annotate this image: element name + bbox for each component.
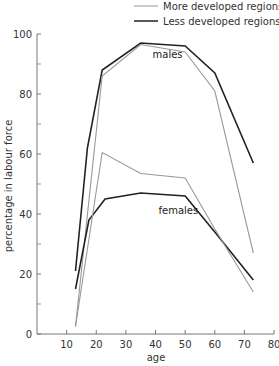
y-tick-label: 0 <box>26 329 32 340</box>
line-chart: More developed regions Less developed re… <box>0 0 279 366</box>
x-tick-label: 10 <box>60 339 73 350</box>
legend-label-more-developed: More developed regions <box>163 1 279 12</box>
males-label: males <box>153 49 183 60</box>
x-tick-label: 40 <box>149 339 162 350</box>
females-label: females <box>158 205 198 216</box>
y-tick-label: 100 <box>13 29 32 40</box>
x-tick-label: 20 <box>90 339 103 350</box>
x-tick-label: 80 <box>268 339 279 350</box>
y-tick-label: 20 <box>19 269 32 280</box>
y-tick-label: 60 <box>19 149 32 160</box>
legend-label-less-developed: Less developed regions <box>163 16 279 27</box>
legend: More developed regions Less developed re… <box>134 1 279 27</box>
x-tick-label: 30 <box>120 339 133 350</box>
data-series <box>76 43 254 327</box>
x-tick-label: 60 <box>208 339 221 350</box>
y-tick-label: 80 <box>19 89 32 100</box>
x-tick-label: 50 <box>179 339 192 350</box>
x-axis-title: age <box>147 352 166 363</box>
x-tick-label: 70 <box>238 339 251 350</box>
axes: 1020304050607080020406080100 <box>13 29 279 350</box>
series-line-males-more-developed <box>76 45 254 327</box>
y-tick-label: 40 <box>19 209 32 220</box>
y-axis-title: percentage in labour force <box>3 120 14 253</box>
series-line-females-more-developed <box>76 153 254 327</box>
